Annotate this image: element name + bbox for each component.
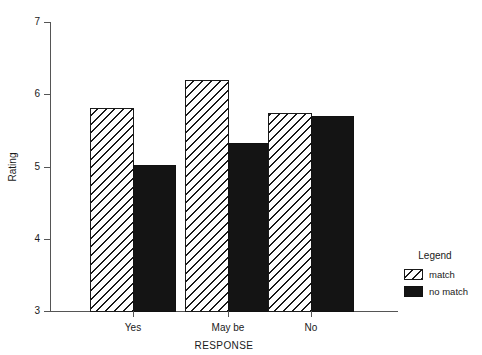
bar-no-match-hatched bbox=[268, 113, 312, 312]
y-axis-title: Rating bbox=[8, 137, 18, 197]
legend-swatch-no-match-icon bbox=[404, 286, 423, 297]
y-tick-3 bbox=[44, 311, 50, 312]
y-tick-label-4: 4 bbox=[20, 234, 40, 244]
y-tick-4 bbox=[44, 239, 50, 240]
legend-swatch-match-icon bbox=[404, 269, 423, 280]
y-tick-6 bbox=[44, 94, 50, 95]
x-tick-yes bbox=[133, 311, 134, 317]
bar-chart: 7 6 5 4 3 Rating Yes May be No RESPONSE … bbox=[0, 0, 482, 355]
legend-title: Legend bbox=[404, 250, 466, 262]
legend-item-match: match bbox=[404, 269, 480, 280]
bar-maybe-match bbox=[185, 80, 229, 312]
y-tick-label-7: 7 bbox=[20, 17, 40, 27]
y-tick-label-5: 5 bbox=[20, 162, 40, 172]
x-tick-label-yes: Yes bbox=[93, 322, 173, 333]
legend-label-match: match bbox=[429, 269, 455, 280]
y-tick-label-3: 3 bbox=[20, 306, 40, 316]
x-tick-label-maybe: May be bbox=[188, 322, 268, 333]
x-tick-maybe bbox=[228, 311, 229, 317]
legend-item-no-match: no match bbox=[404, 286, 480, 297]
legend-label-no-match: no match bbox=[429, 286, 468, 297]
y-tick-5 bbox=[44, 167, 50, 168]
y-tick-7 bbox=[44, 22, 50, 23]
legend: Legend match no match bbox=[404, 250, 480, 303]
y-axis-line bbox=[50, 22, 51, 312]
bar-no-no-match bbox=[311, 116, 354, 312]
bar-yes-match bbox=[90, 108, 134, 312]
x-tick-no bbox=[311, 311, 312, 317]
bar-maybe-no-match bbox=[228, 143, 271, 312]
x-tick-label-no: No bbox=[271, 322, 351, 333]
y-tick-label-6: 6 bbox=[20, 89, 40, 99]
x-axis-title: RESPONSE bbox=[50, 340, 398, 351]
bar-yes-no-match bbox=[133, 165, 176, 312]
